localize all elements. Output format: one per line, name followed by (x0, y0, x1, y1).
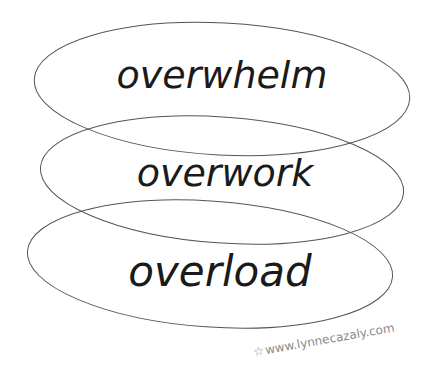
credit-line: ☆ www.lynnecazaly.com (252, 321, 395, 360)
label-overload: overload (128, 247, 312, 296)
star-icon: ☆ (252, 344, 265, 360)
layer-overload: overload (23, 188, 397, 339)
label-overwork: overwork (137, 151, 316, 195)
label-overwhelm: overwhelm (117, 53, 328, 97)
stacked-ellipses-diagram: overwhelm overwork overload ☆ www.lynnec… (0, 0, 430, 370)
layer-overwhelm: overwhelm (31, 13, 413, 164)
